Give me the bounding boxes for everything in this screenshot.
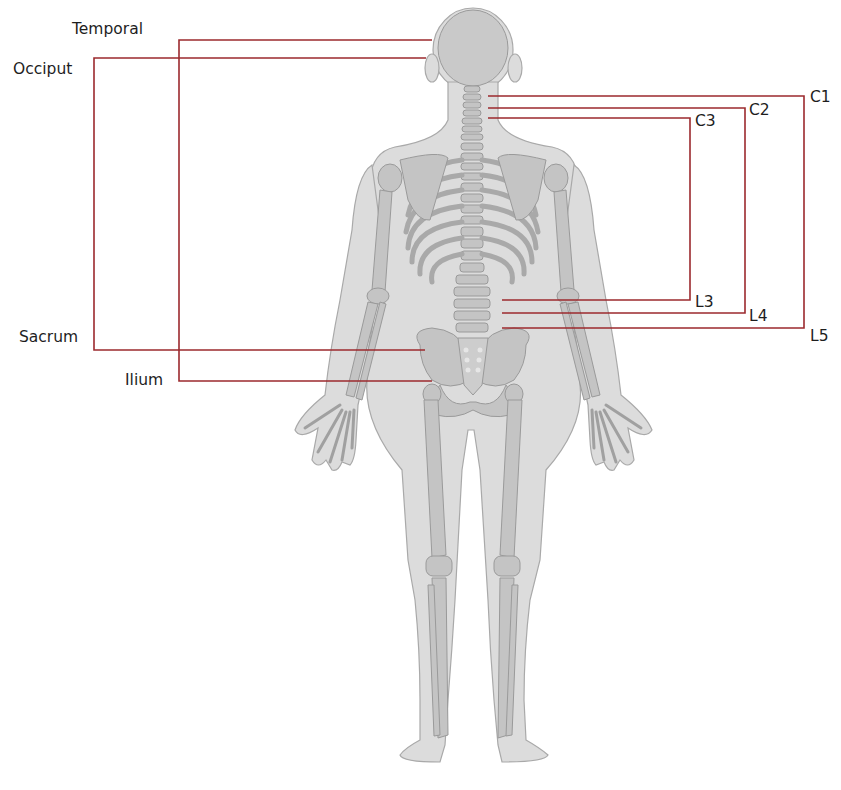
label-c1: C1 [810,90,831,106]
label-l5: L5 [810,329,829,345]
skull [438,10,508,86]
skeleton-diagram: Temporal Occiput Sacrum Ilium C1 C2 C3 L… [0,0,841,790]
skeleton-bones [305,10,641,738]
label-ilium: Ilium [125,373,163,389]
label-l4: L4 [749,309,768,325]
label-c3: C3 [695,114,716,130]
label-temporal: Temporal [72,22,143,38]
label-c2: C2 [749,103,770,119]
label-sacrum: Sacrum [19,330,78,346]
label-l3: L3 [695,295,714,311]
label-occiput: Occiput [13,62,72,78]
